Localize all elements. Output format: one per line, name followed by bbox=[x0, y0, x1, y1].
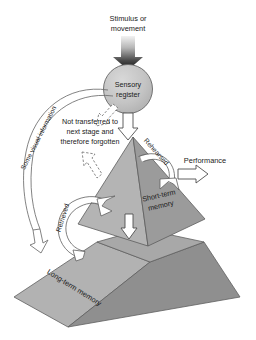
not-transferred-line2: next stage and bbox=[66, 127, 113, 136]
stimulus-label-line2: movement bbox=[111, 24, 146, 33]
retrieved-label: Retrieved bbox=[55, 203, 71, 233]
stm-to-forgotten-arrow-icon bbox=[82, 152, 102, 178]
short-term-memory-shape bbox=[78, 137, 205, 246]
not-transferred-line3: therefore forgotten bbox=[60, 137, 119, 146]
sensory-register-label-line2: register bbox=[116, 90, 141, 99]
long-term-memory-shape bbox=[14, 229, 240, 327]
stm-to-performance-arrow-icon bbox=[178, 165, 208, 183]
stimulus-label-line1: Stimulus or bbox=[110, 14, 148, 23]
sensory-to-stm-arrow-icon bbox=[118, 113, 138, 140]
diagram-canvas: Stimulus or movement Sensory register No… bbox=[0, 0, 256, 340]
sensory-register-label-line1: Sensory bbox=[115, 80, 142, 89]
not-transferred-line1: Not transferred to bbox=[62, 117, 118, 126]
some-visual-information-label: Some visual information bbox=[19, 104, 57, 170]
performance-label: Performance bbox=[184, 156, 226, 165]
